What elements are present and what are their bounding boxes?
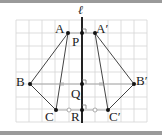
point-B: [28, 82, 32, 86]
point-A: [66, 31, 70, 35]
point-P: [80, 31, 84, 35]
label-P: P: [72, 34, 79, 49]
triangle-A-prime-B-prime-C-prime: [95, 33, 134, 110]
point-Q: [80, 82, 84, 86]
point-R: [80, 108, 84, 112]
triangle-ABC: [30, 33, 68, 110]
point-C: [54, 108, 58, 112]
axis-label: ℓ: [78, 3, 83, 17]
label-A: A: [55, 21, 65, 36]
label-R: R: [71, 109, 80, 124]
label-B: B: [16, 74, 25, 89]
hollow-point-right: [93, 108, 97, 112]
label-B-prime: B′: [136, 73, 148, 88]
label-C: C: [45, 109, 54, 124]
label-C-prime: C′: [109, 109, 121, 124]
reflection-diagram: ℓ A A′ P B B′: [0, 0, 162, 135]
label-Q: Q: [71, 86, 81, 101]
label-A-prime: A′: [96, 21, 108, 36]
